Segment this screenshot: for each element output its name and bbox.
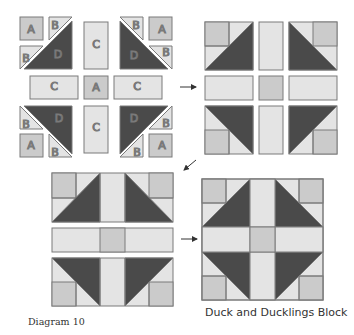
piece-c: [250, 179, 275, 227]
piece-a: [205, 22, 229, 46]
piece-a: [100, 228, 125, 252]
piece-c: [275, 227, 323, 252]
label-b: B: [162, 46, 170, 59]
step-2-units-assembled: [205, 22, 337, 154]
label-a: A: [158, 139, 166, 152]
label-b: B: [22, 118, 30, 131]
piece-c: [205, 76, 253, 100]
piece-a: [202, 276, 226, 300]
piece-a: [52, 173, 76, 198]
label-b: B: [132, 19, 140, 32]
label-c: C: [133, 80, 141, 93]
step-1-exploded-pieces: A B B D C B A B D C A C B A: [20, 17, 172, 159]
label-a: A: [92, 81, 100, 94]
diagram-canvas: A B B D C B A B D C A C B A: [0, 0, 354, 335]
piece-a: [149, 173, 173, 198]
piece-a: [202, 179, 226, 203]
label-d: D: [55, 112, 63, 125]
label-c: C: [92, 38, 100, 51]
piece-c: [202, 227, 250, 252]
piece-a: [313, 22, 337, 46]
label-a: A: [158, 23, 166, 36]
label-c: C: [92, 121, 100, 134]
step-4-finished-block: [202, 179, 323, 300]
piece-c: [259, 22, 283, 70]
piece-a: [299, 276, 323, 300]
piece-c: [259, 106, 283, 154]
label-c: C: [50, 80, 58, 93]
piece-a: [205, 130, 229, 154]
diagram-label: Diagram 10: [28, 316, 85, 327]
label-b: B: [162, 117, 170, 130]
step-3-rows-assembled: [52, 173, 173, 306]
piece-a: [250, 227, 275, 252]
piece-a: [52, 282, 76, 306]
piece-c: [289, 76, 337, 100]
label-b: B: [51, 146, 59, 159]
piece-c: [250, 252, 275, 300]
piece-a: [299, 179, 323, 203]
label-d: D: [130, 112, 138, 125]
block-caption: Duck and Ducklings Block: [205, 306, 348, 319]
label-d: D: [130, 49, 138, 62]
label-b: B: [51, 19, 59, 32]
label-a: A: [27, 139, 35, 152]
label-d: D: [54, 48, 62, 61]
label-a: A: [27, 23, 35, 36]
arrow-step2-to-step3: [184, 160, 196, 170]
piece-a: [313, 130, 337, 154]
label-b: B: [133, 146, 141, 159]
label-b: B: [22, 52, 30, 65]
piece-a: [149, 282, 173, 306]
piece-a: [259, 76, 283, 100]
